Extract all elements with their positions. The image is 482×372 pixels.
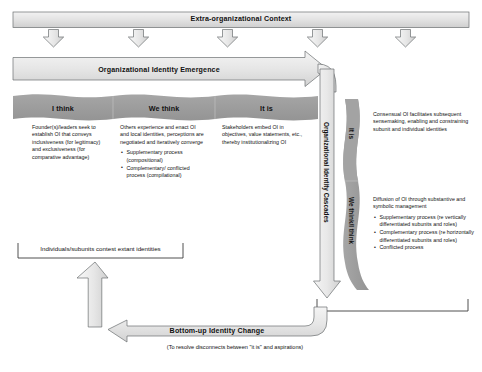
bullet-item: Complementary process (re horizontally d…	[373, 229, 476, 244]
panel-diffusion-bullets: Supplementary process (re vertically dif…	[373, 214, 476, 252]
stage-label-i-think: I think	[13, 104, 113, 113]
column-we-think-paragraph: Others experience and enact OI and local…	[120, 124, 204, 146]
vertical-stage-label-we-think-i-think: We think/I think	[348, 197, 355, 244]
column-i-think-paragraph: Founder(s)/leaders seek to establish OI …	[32, 124, 110, 161]
panel-diffusion-of-oi-paragraph: Diffusion of OI through substantive and …	[373, 196, 476, 211]
stage-label-we-think: We think	[113, 104, 215, 113]
diagram-canvas: Extra-organizational Context Organizatio…	[0, 0, 482, 372]
panel-consensual-oi-paragraph: Consensual OI facilitates subsequent sen…	[373, 111, 473, 133]
context-down-arrows	[43, 30, 415, 48]
bottom-up-identity-change-label: Bottom-up Identity Change	[127, 327, 307, 335]
down-arrow-5	[395, 30, 415, 48]
panel-diffusion-of-oi: Diffusion of OI through substantive and …	[373, 196, 476, 252]
column-we-think-bullets: Supplementary process (compositional) Co…	[120, 149, 204, 179]
vertical-stage-label-it-is: It is	[348, 128, 355, 139]
bullet-item: Supplementary process (compositional)	[120, 149, 204, 164]
down-arrow-3	[217, 30, 237, 48]
column-i-think: Founder(s)/leaders seek to establish OI …	[32, 124, 110, 161]
bullet-item: Conflicted process	[373, 244, 476, 251]
organizational-identity-cascades-label: Organizational Identity Cascades	[323, 122, 330, 223]
column-it-is-paragraph: Stakeholders embed OI in objectives, val…	[222, 124, 308, 146]
contest-extant-identities-label: Individuals/subunits contest extant iden…	[18, 245, 183, 252]
bottom-up-identity-change-sublabel: (To resolve disconnects between "it is" …	[110, 344, 360, 350]
column-it-is: Stakeholders embed OI in objectives, val…	[222, 124, 308, 146]
organizational-identity-emergence-label: Organizational Identity Emergence	[13, 66, 305, 74]
stage-label-it-is: It is	[215, 104, 318, 113]
extra-organizational-context-label: Extra-organizational Context	[0, 15, 482, 23]
panel-consensual-oi: Consensual OI facilitates subsequent sen…	[373, 111, 473, 133]
column-we-think: Others experience and enact OI and local…	[120, 124, 204, 180]
diagram-shapes	[0, 0, 482, 372]
down-arrow-4	[307, 30, 327, 48]
bullet-item: Complementary/ conflicted process (compi…	[120, 165, 204, 180]
bullet-item: Supplementary process (re vertically dif…	[373, 214, 476, 229]
down-arrow-2	[128, 30, 148, 48]
bottom-up-arrow-vertical	[77, 262, 108, 327]
bottom-up-identity-change-arrow	[108, 307, 327, 342]
diffusion-bracket	[317, 299, 468, 311]
down-arrow-1	[43, 30, 63, 48]
